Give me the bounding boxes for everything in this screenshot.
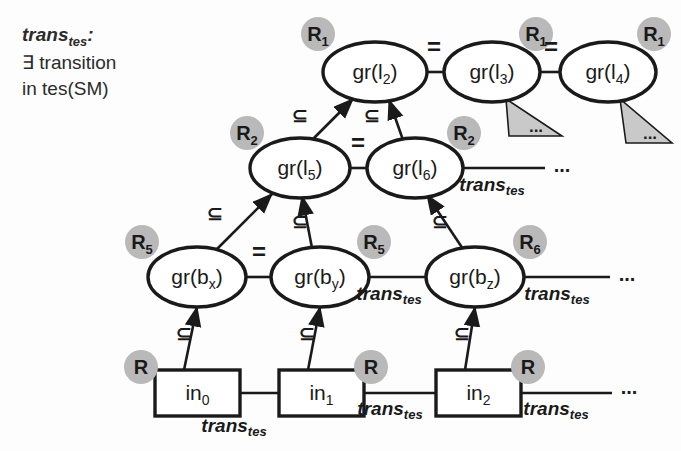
edge-ellipsis-bz-right: ... bbox=[619, 263, 636, 285]
edge-ellipsis-in2-right: ... bbox=[621, 376, 638, 398]
edge-ellipsis-l6-right: ... bbox=[554, 154, 571, 176]
edge-label-trans-in2-right: transtes bbox=[523, 398, 588, 422]
triangle-ellipsis-under-l4: ... bbox=[643, 124, 657, 143]
edge-label-equals-l2-l3: = bbox=[427, 33, 441, 60]
edge-label-subset-bx-to-l5: ⊆ bbox=[207, 203, 223, 224]
node-label-l6: gr(l6) bbox=[392, 156, 437, 183]
edge-label-equals-l3-l4: = bbox=[544, 33, 558, 60]
edge-label-equals-l5-l6: = bbox=[351, 129, 365, 156]
triangle-ellipsis-under-l3: ... bbox=[529, 117, 543, 136]
edge-label-subset-bz-to-l6: ⊆ bbox=[432, 211, 448, 232]
node-label-l4: gr(l4) bbox=[585, 60, 630, 87]
edge-label-subset-l6-to-l2: ⊆ bbox=[364, 105, 380, 126]
node-label-bz: gr(bz) bbox=[449, 265, 500, 292]
node-label-l3: gr(l3) bbox=[469, 60, 514, 87]
triangle-layer: ...... bbox=[506, 99, 672, 143]
node-label-bx: gr(bx) bbox=[171, 265, 222, 292]
edge-label-trans-in1-in2-gap: transtes bbox=[357, 398, 422, 422]
edge-label-equals-bx-by: = bbox=[252, 238, 266, 265]
edge-label-subset-by-to-l5: ⊆ bbox=[292, 211, 308, 232]
node-label-by: gr(by) bbox=[294, 265, 345, 292]
arrow-l5-to-l2 bbox=[312, 99, 353, 140]
edge-label-trans-by-bz-gap: transtes bbox=[356, 283, 421, 307]
badge-label-in2: R bbox=[521, 356, 536, 378]
node-label-l2: gr(l2) bbox=[352, 60, 397, 87]
edge-label-subset-in0-to-bx: ⊆ bbox=[176, 323, 192, 344]
edge-label-subset-in1-to-by: ⊆ bbox=[299, 323, 315, 344]
edge-label-subset-in2-to-bz: ⊆ bbox=[454, 323, 470, 344]
badge-label-in0: R bbox=[134, 356, 149, 378]
diagram-svg: ...... gr(l2)gr(l3)gr(l4)gr(l5)gr(l6)gr(… bbox=[0, 0, 681, 451]
arrow-l6-to-l2 bbox=[389, 100, 403, 140]
badge-label-in1: R bbox=[364, 356, 379, 378]
node-layer: gr(l2)gr(l3)gr(l4)gr(l5)gr(l6)gr(bx)gr(b… bbox=[148, 42, 656, 416]
edge-label-trans-l6-right: transtes bbox=[459, 174, 524, 198]
edge-label-subset-l5-to-l2: ⊆ bbox=[292, 105, 308, 126]
figure-canvas: transtes: ∃ transition in tes(SM) ......… bbox=[0, 0, 681, 451]
node-label-l5: gr(l5) bbox=[277, 156, 322, 183]
edge-label-trans-in0-in1-gap: transtes bbox=[201, 415, 266, 439]
edge-label-trans-bz-right: transtes bbox=[524, 283, 589, 307]
